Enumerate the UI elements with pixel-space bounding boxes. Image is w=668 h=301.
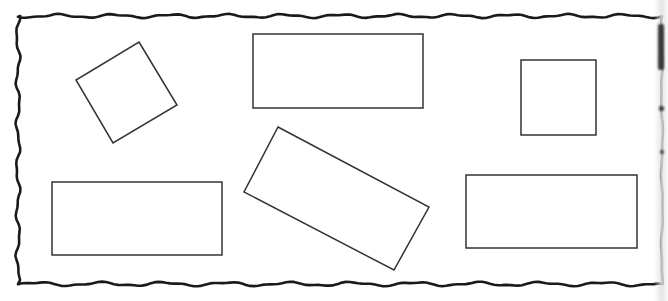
scan-artifact-mark [660, 150, 664, 154]
top-right-square [521, 60, 596, 135]
scan-artifact-mark [659, 106, 664, 111]
tilted-rectangle [244, 127, 429, 270]
bottom-right-rectangle [466, 175, 637, 248]
bottom-left-rectangle [52, 182, 222, 255]
wavy-border-frame [15, 14, 663, 287]
top-center-rectangle [253, 34, 423, 108]
shape-layer [52, 34, 637, 270]
scan-artifact-mark [658, 24, 664, 70]
shapes-diagram [0, 0, 668, 301]
tilted-square [76, 42, 177, 143]
